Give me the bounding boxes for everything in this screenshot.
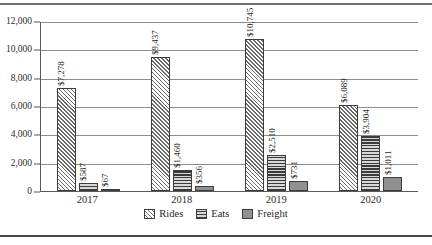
bar-freight-2018[interactable]: $356 [195,186,214,191]
bar-group-bars: $7,278$587$67 [41,22,135,191]
bar-value-label: $67 [101,174,110,188]
legend-item-eats[interactable]: Eats [196,208,229,219]
bar-group-bars: $10,745$2,510$731 [230,22,324,191]
bar-rides-2019[interactable]: $10,745 [245,39,264,191]
bar-eats-2020[interactable]: $3,904 [361,136,380,191]
x-axis-label-2020: 2020 [324,194,419,205]
y-axis-tick-label: 2,000 [11,159,32,169]
bar-group-bars: $9,437$1,460$356 [135,22,229,191]
bar-freight-2020[interactable]: $1,011 [383,177,402,191]
x-axis-label-2017: 2017 [40,194,135,205]
figure-chart: 02,0004,0006,0008,00010,00012,000 $7,278… [0,0,432,245]
bar-rides-2018[interactable]: $9,437 [151,57,170,191]
bar-value-label: $7,278 [57,61,66,86]
bar-eats-2019[interactable]: $2,510 [267,155,286,191]
y-axis-tick-label: 6,000 [11,102,32,112]
bar-groups: $7,278$587$67$9,437$1,460$356$10,745$2,5… [41,22,418,191]
bar-value-label: $6,089 [340,78,349,103]
legend-swatch-freight [242,209,253,219]
legend-label: Freight [257,208,287,219]
y-axis: 02,0004,0006,0008,00010,00012,000 [0,22,40,192]
legend-label: Rides [159,208,183,219]
x-axis-labels: 2017201820192020 [40,194,418,205]
bar-value-label: $731 [290,161,299,179]
x-axis-label-2018: 2018 [135,194,230,205]
y-axis-tick-label: 4,000 [11,131,32,141]
legend-swatch-eats [196,209,207,219]
figure-rule-top [0,3,432,5]
bar-group: $6,089$3,904$1,011 [324,22,418,191]
bar-eats-2017[interactable]: $587 [79,183,98,191]
legend-swatch-rides [144,209,155,219]
legend-item-rides[interactable]: Rides [144,208,183,219]
bar-group: $7,278$587$67 [41,22,135,191]
bar-eats-2018[interactable]: $1,460 [173,170,192,191]
bar-value-label: $587 [79,163,88,181]
y-axis-tick-label: 10,000 [6,46,32,56]
bar-value-label: $1,011 [384,150,393,174]
bar-value-label: $9,437 [151,31,160,56]
chart-legend: RidesEatsFreight [0,208,432,219]
y-axis-tick-label: 8,000 [11,74,32,84]
bar-group: $10,745$2,510$731 [230,22,324,191]
legend-item-freight[interactable]: Freight [242,208,287,219]
figure-rule-bottom [0,235,432,237]
bar-value-label: $10,745 [246,8,255,37]
bar-rides-2017[interactable]: $7,278 [57,88,76,191]
bar-freight-2017[interactable]: $67 [101,189,120,191]
bar-rides-2020[interactable]: $6,089 [339,105,358,191]
plot-area: $7,278$587$67$9,437$1,460$356$10,745$2,5… [40,22,418,192]
bar-value-label: $3,904 [362,109,371,134]
y-axis-tick-label: 0 [27,187,32,197]
x-axis-label-2019: 2019 [229,194,324,205]
legend-label: Eats [211,208,229,219]
plot-wrapper: 02,0004,0006,0008,00010,00012,000 $7,278… [0,22,432,212]
bar-value-label: $1,460 [173,144,182,169]
bar-group: $9,437$1,460$356 [135,22,229,191]
y-axis-tick-label: 12,000 [6,17,32,27]
bar-value-label: $356 [195,166,204,184]
bar-freight-2019[interactable]: $731 [289,181,308,191]
bar-value-label: $2,510 [268,129,277,154]
bar-group-bars: $6,089$3,904$1,011 [324,22,418,191]
